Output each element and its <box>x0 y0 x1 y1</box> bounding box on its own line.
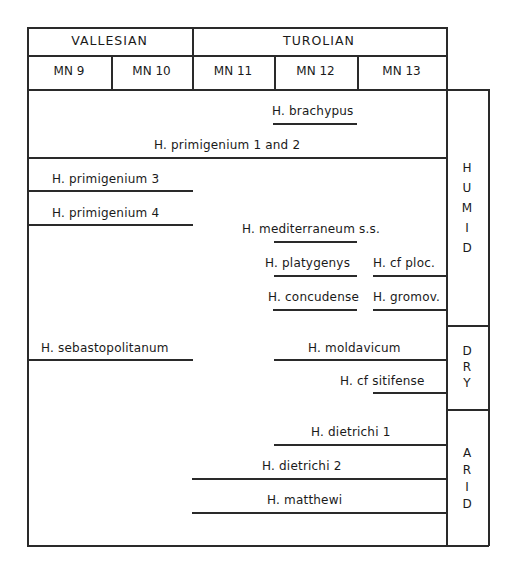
taxon-sebastopolitanum: H. sebastopolitanum <box>41 341 169 355</box>
stage-vallesian: VALLESIAN <box>27 34 192 48</box>
taxon-brachypus: H. brachypus <box>272 104 354 118</box>
climate-letter: M <box>446 198 488 218</box>
climate-letter: A <box>446 445 488 462</box>
climate-letter: D <box>446 496 488 513</box>
header-mid-border <box>27 55 447 57</box>
range-mediterraneum <box>274 241 357 243</box>
climate-letter: I <box>446 218 488 238</box>
header-right-border <box>446 27 448 89</box>
taxon-cf-ploc: H. cf ploc. <box>373 256 435 270</box>
range-dietrichi-1 <box>274 444 447 446</box>
taxon-dietrichi-1: H. dietrichi 1 <box>311 425 391 439</box>
body-bottom-border <box>27 545 489 547</box>
taxon-matthewi: H. matthewi <box>267 493 342 507</box>
zone-mn12: MN 12 <box>274 64 357 78</box>
range-sebastopolitanum <box>27 359 193 361</box>
range-concudense <box>273 309 357 311</box>
range-moldavicum <box>274 359 447 361</box>
climate-letter: Y <box>446 375 488 391</box>
zone-mn10: MN 10 <box>111 64 192 78</box>
climate-letter: I <box>446 479 488 496</box>
taxon-primigenium-4: H. primigenium 4 <box>52 206 159 220</box>
range-gromov <box>373 309 447 311</box>
range-cf-sitifense <box>373 392 447 394</box>
range-primigenium-1-2 <box>27 157 447 159</box>
range-dietrichi-2 <box>192 478 447 480</box>
zone-mn9: MN 9 <box>27 64 111 78</box>
taxon-dietrichi-2: H. dietrichi 2 <box>262 459 342 473</box>
range-brachypus <box>273 123 357 125</box>
range-cf-ploc <box>373 275 447 277</box>
taxon-cf-sitifense: H. cf sitifense <box>340 374 425 388</box>
climate-letter: D <box>446 238 488 258</box>
taxon-mediterraneum: H. mediterraneum s.s. <box>242 222 380 236</box>
taxon-concudense: H. concudense <box>268 290 359 304</box>
range-platygenys <box>274 275 357 277</box>
climate-arid: A R I D <box>446 445 488 513</box>
zone-mn11: MN 11 <box>192 64 274 78</box>
climate-letter: R <box>446 359 488 375</box>
taxon-gromov: H. gromov. <box>373 290 440 304</box>
body-top-border <box>27 89 489 91</box>
taxon-primigenium-1-2: H. primigenium 1 and 2 <box>154 138 300 152</box>
climate-letter: R <box>446 462 488 479</box>
taxon-moldavicum: H. moldavicum <box>308 341 401 355</box>
taxon-platygenys: H. platygenys <box>265 256 350 270</box>
zone-mn13: MN 13 <box>357 64 446 78</box>
climate-dry: D R Y <box>446 343 488 391</box>
climate-divider-dry-arid <box>446 409 489 411</box>
range-matthewi <box>192 512 447 514</box>
body-right-border <box>488 89 490 546</box>
climate-letter: U <box>446 178 488 198</box>
taxon-primigenium-3: H. primigenium 3 <box>52 172 159 186</box>
climate-divider-humid-dry <box>446 325 489 327</box>
range-primigenium-3 <box>28 190 193 192</box>
range-primigenium-4 <box>28 224 193 226</box>
header-top-border <box>27 27 447 29</box>
climate-humid: H U M I D <box>446 158 488 258</box>
climate-letter: D <box>446 343 488 359</box>
climate-letter: H <box>446 158 488 178</box>
stage-turolian: TUROLIAN <box>192 34 446 48</box>
